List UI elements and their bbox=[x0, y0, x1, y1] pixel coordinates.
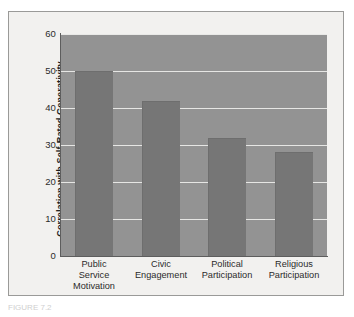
x-tick-label-line: Engagement bbox=[128, 270, 194, 281]
x-tick-label-line: Service bbox=[61, 270, 127, 281]
y-axis-tick-labels: 0102030405060 bbox=[31, 34, 56, 256]
bar-series bbox=[61, 34, 327, 256]
y-tick-label-20: 20 bbox=[34, 177, 56, 187]
y-axis-title-container: Correlation with Self-Rated Generativity bbox=[17, 34, 31, 256]
x-tick-label-0: PublicServiceMotivation bbox=[61, 259, 127, 293]
x-axis-tick-labels: PublicServiceMotivationCivicEngagementPo… bbox=[61, 259, 327, 295]
x-tick-label-line: Political bbox=[194, 259, 260, 270]
x-axis-line bbox=[60, 256, 328, 257]
bar-1 bbox=[142, 101, 180, 256]
figure-frame: Correlation with Self-Rated Generativity… bbox=[8, 11, 344, 296]
x-tick-label-1: CivicEngagement bbox=[128, 259, 194, 281]
x-tick-label-3: ReligiousParticipation bbox=[261, 259, 327, 281]
plot-area bbox=[61, 34, 327, 256]
x-tick-label-line: Participation bbox=[194, 270, 260, 281]
y-tick-label-0: 0 bbox=[34, 251, 56, 261]
y-tick-label-50: 50 bbox=[34, 66, 56, 76]
x-tick-label-line: Participation bbox=[261, 270, 327, 281]
figure-caption-fragment: FIGURE 7.2 bbox=[8, 303, 308, 311]
x-tick-label-line: Public bbox=[61, 259, 127, 270]
y-tick-label-10: 10 bbox=[34, 214, 56, 224]
x-tick-label-line: Motivation bbox=[61, 281, 127, 292]
y-tick-label-30: 30 bbox=[34, 140, 56, 150]
x-tick-label-line: Civic bbox=[128, 259, 194, 270]
x-tick-label-line: Religious bbox=[261, 259, 327, 270]
bar-2 bbox=[208, 138, 246, 256]
bar-0 bbox=[75, 71, 113, 256]
y-tick-label-60: 60 bbox=[34, 29, 56, 39]
bar-3 bbox=[275, 152, 313, 256]
y-tick-label-40: 40 bbox=[34, 103, 56, 113]
x-tick-label-2: PoliticalParticipation bbox=[194, 259, 260, 281]
y-axis-line bbox=[60, 33, 61, 257]
